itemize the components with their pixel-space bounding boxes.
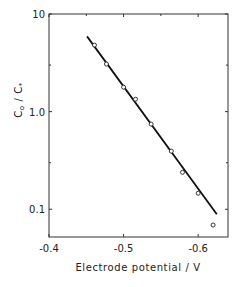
x-axis-label: Electrode potential / V	[75, 262, 200, 273]
y-tick-label: 10	[32, 9, 45, 20]
data-point	[104, 62, 108, 66]
data-point	[92, 43, 96, 47]
x-tick-label: -0.4	[39, 243, 59, 254]
data-point	[196, 191, 200, 195]
data-point	[134, 97, 138, 101]
y-tick-label: 0.1	[29, 204, 45, 215]
data-point	[149, 122, 153, 126]
x-tick-label: -0.6	[188, 243, 208, 254]
y-axis-label: Co / C*	[13, 82, 26, 118]
data-point	[211, 223, 215, 227]
y-tick-label: 1.0	[29, 107, 45, 118]
data-points	[92, 43, 215, 227]
data-point	[181, 170, 185, 174]
plot-frame	[49, 14, 228, 237]
svg-text:Co / C*: Co / C*	[13, 82, 26, 118]
chart: -0.4-0.5-0.6101.00.1 Electrode potential…	[0, 0, 238, 287]
data-point	[169, 149, 173, 153]
tick-labels: -0.4-0.5-0.6101.00.1	[29, 9, 208, 254]
axis-ticks	[49, 14, 228, 237]
data-point	[122, 85, 126, 89]
x-tick-label: -0.5	[114, 243, 134, 254]
